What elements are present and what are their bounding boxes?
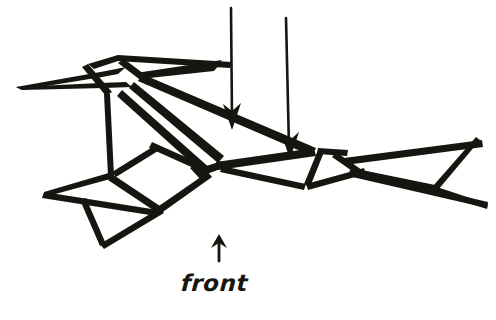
tail-fin-spike-lower [432,186,488,209]
fold-arrow-right [281,18,299,159]
lower-flap-spike-right [100,208,164,249]
front-label-text: front [181,272,250,295]
lower-flap-left-point [44,172,114,196]
fold-arrow-left-shaft [231,8,232,118]
front-label: front [0,272,496,295]
origami-diagram: front [0,0,496,320]
front-orientation-arrow [211,234,227,261]
